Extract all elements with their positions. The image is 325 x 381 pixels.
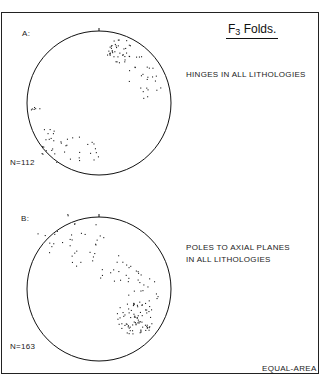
axial-plane-pole-points xyxy=(38,214,159,334)
hinge-points xyxy=(31,40,161,163)
stereonet-a xyxy=(27,28,171,175)
stereonet-b xyxy=(27,214,171,361)
stereonet-plots xyxy=(0,0,325,381)
